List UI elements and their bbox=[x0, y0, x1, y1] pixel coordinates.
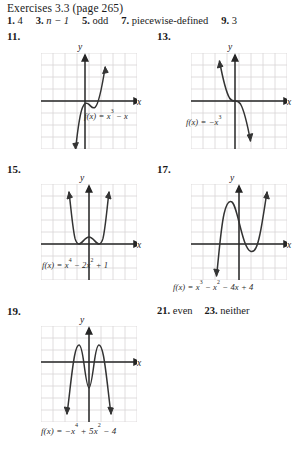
graph-canvas-13 bbox=[191, 53, 287, 149]
answer-text: 4 bbox=[18, 15, 23, 26]
answer-number: 23. bbox=[205, 305, 221, 316]
answer-text: piecewise-defined bbox=[132, 15, 208, 26]
eq-part: − x bbox=[114, 111, 128, 121]
answer-item-1: 1. 4 bbox=[7, 15, 23, 26]
answer-item-23: 23. neither bbox=[205, 305, 250, 316]
y-axis-label: y bbox=[80, 173, 84, 183]
x-axis-label: x bbox=[287, 97, 291, 107]
answer-item-21: 21. even bbox=[157, 305, 193, 316]
graph-canvas-17 bbox=[191, 184, 287, 280]
graph-grid-13 bbox=[191, 53, 287, 149]
x-axis-label: x bbox=[287, 240, 291, 250]
graph-canvas-11 bbox=[41, 53, 137, 149]
answer-number: 7. bbox=[121, 15, 132, 26]
answer-text: n − 1 bbox=[46, 15, 69, 26]
eq-part: − 4 bbox=[101, 426, 116, 436]
figure-17: y x bbox=[186, 176, 294, 298]
problem-label-19: 19. bbox=[7, 305, 21, 317]
equation-19: f(x) = −x4 + 5x2 − 4 bbox=[41, 426, 116, 436]
eq-part: f(x) = x bbox=[84, 111, 111, 121]
eq-exponent: 4 bbox=[69, 257, 72, 263]
answer-text: 3 bbox=[232, 15, 237, 26]
problem-label-11: 11. bbox=[7, 30, 20, 42]
y-axis-label: y bbox=[78, 42, 82, 52]
answer-item-3: 3. n − 1 bbox=[36, 15, 69, 26]
equation-11: f(x) = x3 − x bbox=[84, 111, 128, 121]
y-axis-label: y bbox=[230, 173, 234, 183]
eq-part: + 5x bbox=[78, 426, 98, 436]
problem-label-13: 13. bbox=[157, 30, 171, 42]
graph-grid-17 bbox=[191, 184, 287, 280]
figure-19: y x bbox=[36, 318, 146, 446]
eq-part: f(x) = x bbox=[42, 260, 69, 270]
answer-group-21-23: 21. even23. neither bbox=[157, 305, 249, 316]
y-axis-label: y bbox=[228, 42, 232, 52]
answer-text: neither bbox=[220, 305, 249, 316]
answer-item-9: 9. 3 bbox=[221, 15, 237, 26]
eq-exponent: 4 bbox=[75, 422, 78, 428]
equation-13: f(x) = −x3 bbox=[186, 117, 222, 127]
equation-17: f(x) = x3 − x2 − 4x + 4 bbox=[173, 282, 253, 292]
eq-exponent: 2 bbox=[90, 257, 93, 263]
graph-grid-19 bbox=[41, 326, 137, 422]
problem-label-15: 15. bbox=[7, 163, 21, 175]
figure-13: y x bbox=[186, 45, 294, 150]
figure-15: y x bbox=[36, 176, 146, 284]
eq-part: f(x) = −x bbox=[41, 426, 75, 436]
x-axis-label: x bbox=[137, 240, 141, 250]
eq-part: f(x) = x bbox=[173, 282, 200, 292]
answer-item-7: 7. piecewise-defined bbox=[121, 15, 208, 26]
eq-exponent: 3 bbox=[111, 108, 114, 114]
answer-number: 21. bbox=[157, 305, 173, 316]
graph-grid-11 bbox=[41, 53, 137, 149]
figure-11: y x bbox=[36, 45, 146, 150]
page-title: Exercises 3.3 (page 265) bbox=[7, 2, 123, 14]
eq-exponent: 2 bbox=[98, 422, 101, 428]
eq-part: + 1 bbox=[93, 260, 108, 270]
problem-label-17: 17. bbox=[157, 163, 171, 175]
answer-number: 5. bbox=[82, 15, 93, 26]
answer-text: even bbox=[173, 305, 193, 316]
eq-part: − 2x bbox=[72, 260, 91, 270]
eq-part: − 4x + 4 bbox=[220, 282, 254, 292]
inline-answer-list: 1. 43. n − 15. odd7. piecewise-defined9.… bbox=[7, 15, 294, 26]
eq-part: f(x) = −x bbox=[186, 117, 219, 127]
eq-part: − x bbox=[203, 282, 217, 292]
eq-exponent: 3 bbox=[219, 114, 222, 120]
answer-number: 3. bbox=[36, 15, 47, 26]
answer-text: odd bbox=[93, 15, 109, 26]
x-axis-label: x bbox=[137, 97, 141, 107]
answer-item-5: 5. odd bbox=[82, 15, 108, 26]
graph-canvas-19 bbox=[41, 326, 137, 422]
x-axis-label: x bbox=[137, 358, 141, 368]
y-axis-label: y bbox=[80, 315, 84, 325]
eq-exponent: 3 bbox=[200, 279, 203, 285]
answer-number: 9. bbox=[221, 15, 232, 26]
answer-number: 1. bbox=[7, 15, 18, 26]
answers-page: Exercises 3.3 (page 265) 1. 43. n − 15. … bbox=[0, 0, 294, 449]
eq-exponent: 2 bbox=[217, 279, 220, 285]
equation-15: f(x) = x4 − 2x2 + 1 bbox=[42, 260, 108, 270]
